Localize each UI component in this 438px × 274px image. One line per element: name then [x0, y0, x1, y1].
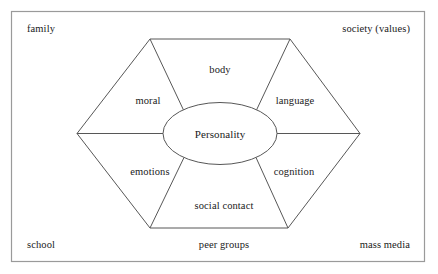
- sector-label-cognition: cognition: [274, 167, 315, 178]
- diagram-canvas: Personality body language cognition soci…: [0, 0, 438, 274]
- context-label-mass-media: mass media: [360, 240, 410, 251]
- context-label-school: school: [27, 240, 55, 251]
- context-label-society: society (values): [342, 24, 410, 35]
- sector-label-social-contact: social contact: [195, 201, 254, 212]
- sector-label-language: language: [276, 96, 315, 107]
- sector-label-body: body: [209, 65, 230, 76]
- sector-label-emotions: emotions: [130, 167, 169, 178]
- sector-label-moral: moral: [136, 96, 161, 107]
- context-label-peer-groups: peer groups: [199, 240, 249, 251]
- context-label-family: family: [27, 24, 55, 35]
- core-label: Personality: [195, 129, 246, 140]
